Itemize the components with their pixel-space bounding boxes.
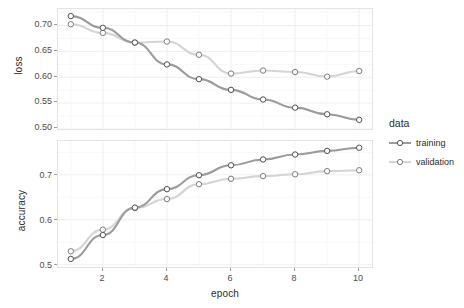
data-point <box>100 227 105 232</box>
data-point <box>324 168 329 173</box>
data-point <box>324 148 329 153</box>
data-point <box>228 176 233 181</box>
data-point <box>196 173 201 178</box>
accuracy-series-validation <box>68 168 362 254</box>
ytick-mark-loss-4 <box>54 127 57 128</box>
ytick-accuracy-0: 0.7 <box>20 170 52 180</box>
ytick-accuracy-2: 0.5 <box>20 260 52 270</box>
panel-loss <box>57 8 373 130</box>
x-axis-title-epoch: epoch <box>195 288 255 299</box>
ytick-mark-loss-3 <box>54 101 57 102</box>
data-point <box>356 168 361 173</box>
data-point <box>260 68 265 73</box>
xtick-label-0: 2 <box>87 273 117 283</box>
data-point <box>292 69 297 74</box>
ytick-mark-loss-0 <box>54 24 57 25</box>
data-point <box>164 196 169 201</box>
xtick-mark-1 <box>166 268 167 271</box>
chart-root: loss accuracy epoch <box>0 0 464 308</box>
data-point <box>132 40 137 45</box>
data-point <box>260 97 265 102</box>
xtick-label-4: 10 <box>343 273 373 283</box>
xtick-mark-2 <box>230 268 231 271</box>
data-point <box>228 163 233 168</box>
data-point <box>100 25 105 30</box>
xtick-label-1: 4 <box>151 273 181 283</box>
data-point <box>100 232 105 237</box>
data-point <box>196 76 201 81</box>
xtick-mark-3 <box>294 268 295 271</box>
data-point <box>356 68 361 73</box>
ytick-loss-1: 0.65 <box>20 45 52 55</box>
data-point <box>196 182 201 187</box>
data-point <box>164 62 169 67</box>
ytick-mark-accuracy-0 <box>54 174 57 175</box>
y-axis-title-accuracy: accuracy <box>16 176 27 246</box>
ytick-loss-4: 0.50 <box>20 122 52 132</box>
data-point <box>228 71 233 76</box>
ytick-mark-accuracy-1 <box>54 219 57 220</box>
data-point <box>228 87 233 92</box>
data-point <box>324 112 329 117</box>
ytick-loss-3: 0.55 <box>20 96 52 106</box>
legend-swatch-validation-icon <box>389 155 411 169</box>
data-point <box>292 105 297 110</box>
data-point <box>356 117 361 122</box>
accuracy-gridlines <box>58 141 372 267</box>
legend-title: data <box>389 117 409 129</box>
data-point <box>68 22 73 27</box>
legend-key-validation[interactable] <box>389 155 411 169</box>
data-point <box>164 39 169 44</box>
ytick-loss-2: 0.60 <box>20 71 52 81</box>
legend-label-validation[interactable]: validation <box>416 157 454 167</box>
data-point <box>164 186 169 191</box>
data-point <box>68 13 73 18</box>
data-point <box>68 249 73 254</box>
loss-series-training <box>68 13 362 122</box>
data-point <box>132 205 137 210</box>
accuracy-plot-svg <box>58 141 372 267</box>
data-point <box>356 145 361 150</box>
legend-label-training[interactable]: training <box>416 138 446 148</box>
ytick-mark-loss-2 <box>54 76 57 77</box>
ytick-mark-accuracy-2 <box>54 264 57 265</box>
data-point <box>68 256 73 261</box>
data-point <box>324 74 329 79</box>
xtick-label-3: 8 <box>279 273 309 283</box>
data-point <box>292 152 297 157</box>
ytick-mark-loss-1 <box>54 50 57 51</box>
xtick-mark-4 <box>358 268 359 271</box>
data-point <box>260 157 265 162</box>
legend-swatch-training-icon <box>389 136 411 150</box>
loss-plot-svg <box>58 9 372 129</box>
data-point <box>196 52 201 57</box>
ytick-accuracy-1: 0.6 <box>20 215 52 225</box>
legend-key-training[interactable] <box>389 136 411 150</box>
panel-accuracy <box>57 140 373 268</box>
ytick-loss-0: 0.70 <box>20 19 52 29</box>
xtick-mark-0 <box>102 268 103 271</box>
accuracy-series-training <box>68 145 362 262</box>
data-point <box>292 172 297 177</box>
xtick-label-2: 6 <box>215 273 245 283</box>
data-point <box>260 173 265 178</box>
